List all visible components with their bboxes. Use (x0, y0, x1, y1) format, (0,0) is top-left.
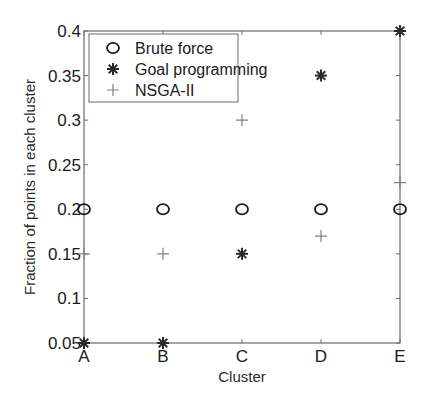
x-tick-label: B (157, 347, 168, 366)
y-tick-label: 0.15 (48, 245, 81, 264)
circle-marker-icon (236, 204, 248, 214)
circle-marker-icon (157, 204, 169, 214)
y-tick-label: 0.3 (57, 111, 81, 130)
x-tick-label: A (78, 347, 90, 366)
scatter-chart: 0.050.10.150.20.250.30.350.4 ABCDE Clust… (0, 0, 429, 398)
asterisk-marker-icon (236, 248, 248, 260)
legend-label: NSGA-II (135, 82, 195, 99)
plus-marker-icon (315, 230, 327, 242)
series-nsga-ii (78, 114, 406, 260)
y-tick-label: 0.05 (48, 334, 81, 353)
y-tick-label: 0.1 (57, 289, 81, 308)
y-tick-label: 0.35 (48, 67, 81, 86)
plus-marker-icon (236, 114, 248, 126)
y-axis-label: Fraction of points in each cluster (21, 79, 38, 295)
asterisk-marker-icon (107, 63, 119, 75)
y-tick-label: 0.25 (48, 156, 81, 175)
plus-marker-icon (157, 248, 169, 260)
x-tick-label: C (236, 347, 248, 366)
legend-label: Goal programming (135, 61, 268, 78)
asterisk-marker-icon (157, 337, 169, 349)
x-axis-label: Cluster (218, 368, 266, 385)
asterisk-marker-icon (315, 70, 327, 82)
circle-marker-icon (315, 204, 327, 214)
asterisk-marker-icon (394, 25, 406, 37)
legend-label: Brute force (135, 40, 213, 57)
legend: Brute forceGoal programmingNSGA-II (89, 34, 268, 102)
asterisk-marker-icon (78, 337, 90, 349)
x-tick-label: D (315, 347, 327, 366)
plus-marker-icon (394, 177, 406, 189)
series-brute-force (78, 204, 406, 214)
x-tick-label: E (394, 347, 405, 366)
y-tick-label: 0.4 (57, 22, 81, 41)
